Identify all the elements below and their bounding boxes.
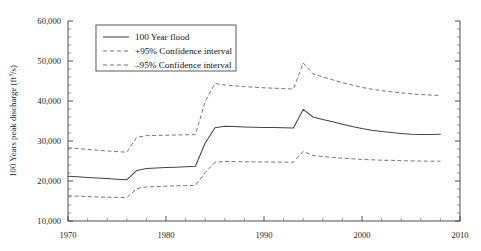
y-tick-label: 10,000	[37, 216, 61, 226]
chart-legend[interactable]: 100 Year flood+95% Confidence interval–9…	[96, 25, 236, 71]
data-series	[68, 63, 440, 198]
chart-figure: 10,00020,00030,00040,00050,00060,0001970…	[0, 0, 481, 251]
line-chart: 10,00020,00030,00040,00050,00060,0001970…	[0, 0, 481, 251]
y-tick-label: 20,000	[37, 176, 61, 186]
series-line-0	[68, 109, 440, 179]
y-tick-label: 40,000	[37, 96, 61, 106]
legend-label: 100 Year flood	[135, 32, 190, 42]
x-tick-label: 2000	[353, 230, 370, 240]
y-tick-label: 60,000	[37, 16, 61, 26]
x-tick-label: 1970	[59, 230, 76, 240]
series-line-1	[68, 63, 440, 152]
x-tick-label: 1980	[157, 230, 174, 240]
y-tick-label: 50,000	[37, 56, 61, 66]
legend-label: –95% Confidence interval	[134, 60, 232, 70]
x-tick-label: 1990	[255, 230, 272, 240]
legend-label: +95% Confidence interval	[135, 46, 232, 56]
y-axis-title-text: 100 Years peak discharge (ft3/s)	[7, 65, 18, 177]
y-tick-label: 30,000	[37, 136, 61, 146]
y-axis-title: 100 Years peak discharge (ft3/s)	[7, 65, 18, 177]
x-tick-label: 2010	[451, 230, 468, 240]
series-line-2	[68, 151, 440, 197]
